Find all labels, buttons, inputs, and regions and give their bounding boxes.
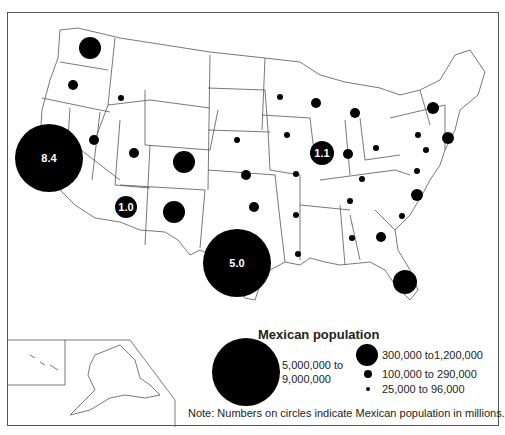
legend-xlarge-line2: 9,000,000 <box>282 372 343 386</box>
circle-label-illinois: 1.1 <box>314 147 329 159</box>
legend-medium-label: 100,000 to 290,000 <box>382 367 477 381</box>
circle-label-california: 8.4 <box>41 152 56 164</box>
legend-xlarge-line1: 5,000,000 to <box>282 358 343 372</box>
legend-title: Mexican population <box>258 327 379 342</box>
legend-large-label: 300,000 to1,200,000 <box>382 348 483 362</box>
legend-small-label: 25,000 to 96,000 <box>382 382 465 396</box>
legend-xlarge-label: 5,000,000 to 9,000,000 <box>282 358 343 386</box>
circle-label-texas: 5.0 <box>229 257 244 269</box>
note-text: Note: Numbers on circles indicate Mexica… <box>188 407 505 419</box>
circle-label-arizona: 1.0 <box>118 201 133 213</box>
